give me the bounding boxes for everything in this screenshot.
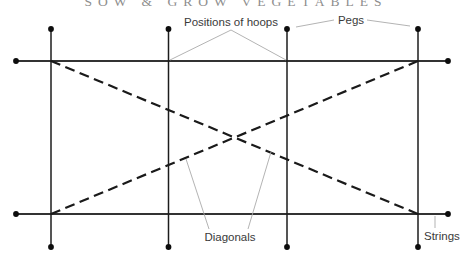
diagram-page: SOW & GROW VEGETABLES xyxy=(0,0,467,262)
pointer-pegs-right xyxy=(367,20,410,26)
peg-dot xyxy=(445,58,451,64)
peg-dot xyxy=(415,244,421,250)
peg-dot xyxy=(166,26,172,32)
peg-dot xyxy=(284,244,290,250)
page-header-title: SOW & GROW VEGETABLES xyxy=(84,0,387,9)
label-positions-of-hoops: Positions of hoops xyxy=(184,16,278,28)
peg-dot xyxy=(13,58,19,64)
label-pegs: Pegs xyxy=(338,14,364,26)
label-diagonals: Diagonals xyxy=(204,231,255,243)
pointer-pegs-left xyxy=(296,20,334,27)
peg-dot xyxy=(48,26,54,32)
peg-dot xyxy=(48,244,54,250)
pointer-diagonals-right xyxy=(248,152,271,229)
peg-dot xyxy=(415,26,421,32)
label-strings: Strings xyxy=(424,230,460,242)
peg-dot xyxy=(445,211,451,217)
peg-dot xyxy=(284,26,290,32)
garden-plot-diagram: SOW & GROW VEGETABLES xyxy=(0,0,467,262)
pointer-diagonals-left xyxy=(186,159,209,229)
peg-dot xyxy=(166,244,172,250)
peg-dot xyxy=(13,211,19,217)
pointer-positions-of-hoops xyxy=(170,30,286,60)
